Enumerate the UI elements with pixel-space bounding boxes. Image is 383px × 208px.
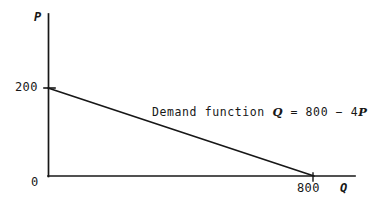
origin-label: 0 xyxy=(31,176,38,188)
annotation-variable-q: Q xyxy=(272,105,283,119)
x-axis-label: Q xyxy=(340,182,347,194)
demand-curve-figure: P Q 200 0 800 Demand function Q = 800 − … xyxy=(0,0,383,208)
annotation-variable-p: P xyxy=(358,105,367,119)
demand-curve-line xyxy=(48,88,314,176)
demand-function-annotation: Demand function Q = 800 − 4P xyxy=(152,107,368,119)
y-tick-label-200: 200 xyxy=(15,81,38,93)
annotation-prefix: Demand function xyxy=(152,105,272,119)
plot-area xyxy=(0,0,383,208)
y-axis-label: P xyxy=(34,11,41,23)
x-tick-label-800: 800 xyxy=(297,182,320,194)
annotation-equation: = 800 − 4 xyxy=(283,105,358,119)
